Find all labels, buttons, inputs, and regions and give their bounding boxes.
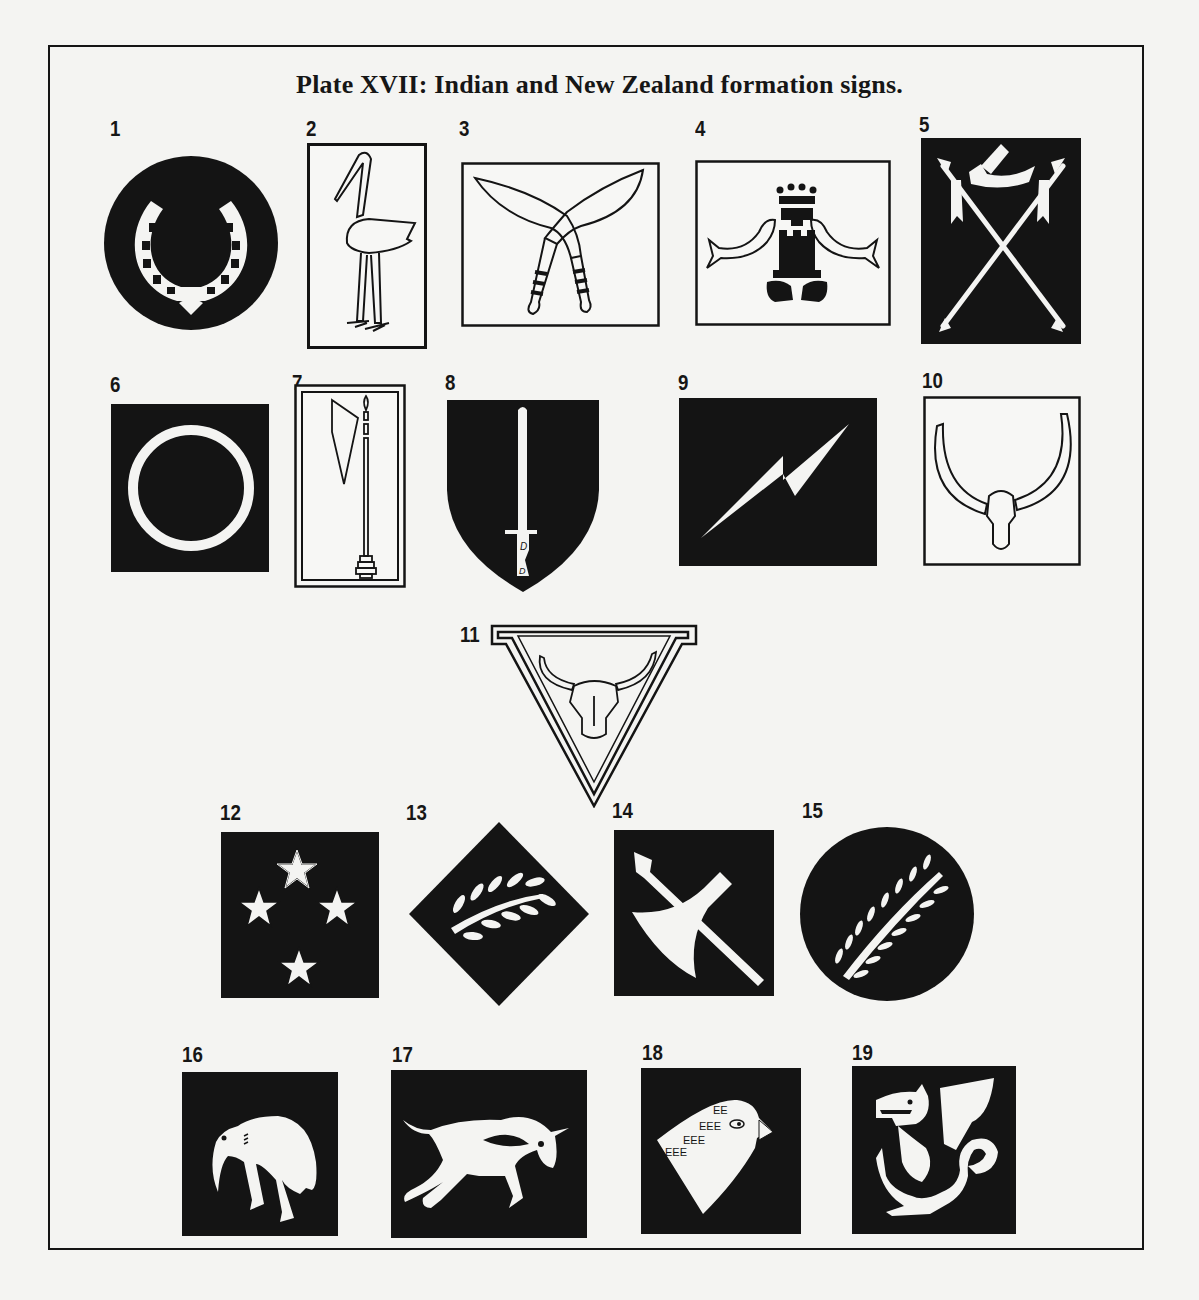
sign-12-southern-cross-stars-icon [221, 832, 379, 998]
sign-11-triangle-bull-icon [490, 622, 698, 808]
svg-text:EEE: EEE [683, 1134, 705, 1146]
sign-number: 3 [459, 116, 469, 142]
sign-9-lightning-bolt-icon [679, 398, 877, 566]
sign-number: 2 [306, 116, 316, 142]
sign-number: 15 [802, 798, 823, 824]
sign-number: 1 [110, 116, 120, 142]
sign-number: 5 [919, 112, 929, 138]
sign-number: 11 [460, 622, 480, 648]
sign-number: 12 [220, 800, 241, 826]
sign-19-dragon-icon [852, 1066, 1016, 1234]
sign-number: 17 [392, 1042, 413, 1068]
sign-5-crossed-lances-icon [921, 138, 1081, 344]
svg-text:EE: EE [713, 1104, 728, 1116]
sign-10-bull-head-icon [923, 396, 1081, 566]
sign-number: 8 [445, 370, 455, 396]
svg-text:EEE: EEE [699, 1120, 721, 1132]
sign-8-sword-shield-icon: D D [447, 400, 599, 592]
sign-number: 10 [922, 368, 943, 394]
sign-15-fern-leaf-icon [799, 826, 975, 1002]
sign-1-horseshoe-icon [103, 155, 279, 331]
sign-number: 4 [695, 116, 705, 142]
sign-4-castle-dolphins-icon [695, 160, 891, 326]
sign-number: 9 [678, 370, 688, 396]
plate-title: Plate XVII: Indian and New Zealand forma… [0, 70, 1199, 100]
svg-text:D: D [519, 566, 526, 576]
sign-number: 19 [852, 1040, 873, 1066]
sign-13-leaf-branch-icon [407, 820, 591, 1008]
sign-18-parrot-head-icon: EEEEEEEEEEE [641, 1068, 801, 1234]
sign-14-axe-spear-icon [614, 830, 774, 996]
sign-6-ring-icon [111, 404, 269, 572]
sign-3-crossed-kukris-icon [461, 162, 660, 327]
sign-16-kiwi-icon [182, 1072, 338, 1236]
svg-text:D: D [520, 541, 527, 552]
sign-number: 16 [182, 1042, 203, 1068]
sign-2-stork-icon [307, 143, 427, 349]
sign-number: 6 [110, 372, 120, 398]
svg-text:EEE: EEE [665, 1146, 687, 1158]
sign-7-axe-pole-icon [294, 384, 406, 588]
sign-number: 18 [642, 1040, 663, 1066]
sign-17-charging-bull-icon [391, 1070, 587, 1238]
